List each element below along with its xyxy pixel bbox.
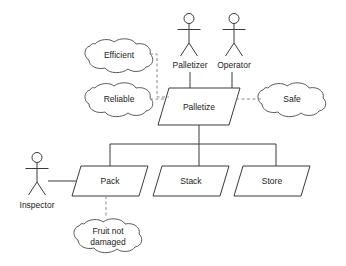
actor-label-operator: Operator (217, 60, 251, 70)
use-case-palletize[interactable]: Palletize (158, 88, 240, 125)
use-case-stack[interactable]: Stack (153, 166, 229, 196)
use-case-pack[interactable]: Pack (72, 166, 148, 196)
use-case-store[interactable]: Store (234, 166, 310, 196)
actor-leg-left (226, 43, 235, 56)
actor-palletizer[interactable]: Palletizer (173, 14, 208, 89)
actor-operator[interactable]: Operator (217, 14, 251, 89)
actor-leg-left (181, 43, 190, 56)
use-case-label-stack: Stack (180, 176, 202, 186)
soft-goal-label-safe: Safe (283, 94, 301, 104)
soft-goal-label-reliable: Reliable (104, 94, 135, 104)
soft-goal-label-fruit-not-damaged-line2: damaged (90, 237, 126, 247)
use-case-label-store: Store (262, 176, 283, 186)
actor-leg-right (189, 43, 198, 56)
actor-leg-right (234, 43, 243, 56)
actor-head-icon (229, 14, 239, 24)
diagram-canvas: Palletizer Operator Palletize Efficient … (0, 0, 346, 266)
actor-head-icon (184, 14, 194, 24)
actor-label-palletizer: Palletizer (173, 60, 208, 70)
actor-leg-right (37, 182, 46, 195)
soft-goal-safe[interactable]: Safe (258, 83, 326, 117)
soft-goal-reliable[interactable]: Reliable (85, 83, 153, 117)
use-case-label-pack: Pack (101, 176, 121, 186)
soft-goal-label-fruit-not-damaged-line1: Fruit not (92, 226, 124, 236)
use-case-diagram: Palletizer Operator Palletize Efficient … (0, 0, 346, 266)
actor-inspector[interactable]: Inspector (20, 153, 76, 211)
actor-label-inspector: Inspector (20, 200, 55, 210)
use-case-label-palletize: Palletize (183, 102, 215, 112)
soft-goal-efficient[interactable]: Efficient (85, 39, 153, 73)
actor-head-icon (32, 153, 42, 163)
soft-goal-label-efficient: Efficient (104, 50, 135, 60)
actor-leg-left (29, 182, 38, 195)
soft-goal-fruit-not-damaged[interactable]: Fruit not damaged (74, 219, 142, 253)
